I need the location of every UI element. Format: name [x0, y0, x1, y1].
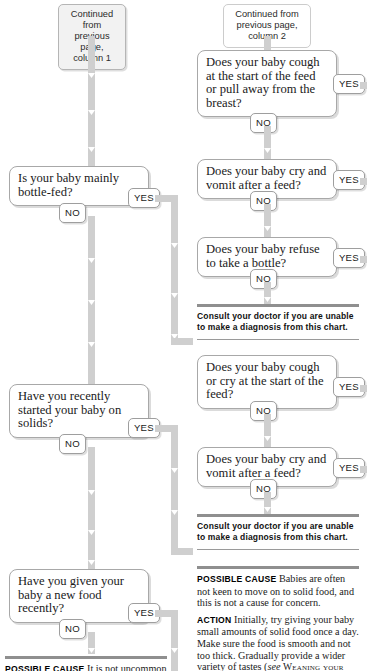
connector-yes-solids-down	[171, 425, 178, 555]
consult-line-1a: Consult your doctor if you are unable	[197, 311, 354, 321]
node-cough-or-cry-start-feed-text: Does your baby cough or cry at the start…	[198, 356, 336, 408]
connector-q1-to-q2	[264, 126, 271, 159]
no-badge-bottle-fed[interactable]: NO	[59, 203, 86, 223]
consult-block-1: Consult your doctor if you are unable to…	[197, 304, 359, 340]
possible-cause-paragraph-col1: Possible cause It is not uncommon for	[5, 663, 167, 671]
advice-block-col2: Possible cause Babies are often not keen…	[197, 566, 359, 671]
node-cough-start-feed-breast[interactable]: Does your baby cough at the start of the…	[197, 50, 337, 117]
connector-yes-bottlefed-into-col2	[171, 338, 193, 345]
consult-rule-bottom-1	[197, 339, 359, 340]
consult-rule-bottom-2	[197, 549, 359, 550]
connector-q4-to-q5	[264, 414, 271, 447]
connector-yes-bottlefed-down	[171, 195, 178, 345]
connector-yes-cough-or-cry-stub	[360, 385, 367, 392]
consult-block-2: Consult your doctor if you are unable to…	[197, 514, 359, 550]
consult-line-2b: to make a diagnosis from this chart.	[197, 532, 348, 542]
action-label-col2: Action	[197, 615, 231, 625]
flowchart-page: Continued fromprevious page, column 1 Is…	[0, 0, 367, 671]
possible-cause-paragraph-col2: Possible cause Babies are often not keen…	[197, 573, 359, 609]
consult-text-2: Consult your doctor if you are unable to…	[197, 517, 359, 549]
possible-cause-label-col2: Possible cause	[197, 574, 276, 584]
connector-yes-cry-vomit-2-stub	[360, 466, 367, 473]
possible-cause-label-col1: Possible cause	[5, 664, 84, 671]
advice-body-col2: Possible cause Babies are often not keen…	[197, 569, 359, 671]
consult-line-1b: to make a diagnosis from this chart.	[197, 322, 348, 332]
connector-yes-refuse-bottle-stub	[360, 256, 367, 263]
connector-yes-cough-breast-stub	[360, 82, 367, 89]
connector-col1-header-to-bottlefed	[88, 36, 95, 166]
advice-block-col1: Possible cause It is not uncommon for	[5, 656, 167, 671]
consult-line-2a: Consult your doctor if you are unable	[197, 521, 354, 531]
connector-yes-cry-vomit-1-stub	[360, 178, 367, 185]
action-paragraph-col2: Action Initially, try giving your baby s…	[197, 614, 359, 671]
connector-yes-newfood-down	[171, 610, 178, 671]
no-badge-new-food[interactable]: NO	[59, 619, 86, 639]
connector-col2-header-to-q1	[264, 36, 271, 50]
connector-yes-solids-into-col2	[171, 548, 193, 555]
connector-q2-to-q3	[264, 204, 271, 237]
node-cough-start-feed-breast-text: Does your baby cough at the start of the…	[198, 51, 336, 116]
action-see-italic: see	[267, 661, 280, 671]
no-badge-started-solids[interactable]: NO	[59, 434, 86, 454]
consult-text-1: Consult your doctor if you are unable to…	[197, 307, 359, 339]
advice-body-col1: Possible cause It is not uncommon for	[5, 659, 167, 671]
connector-no-solids-down	[88, 447, 95, 569]
